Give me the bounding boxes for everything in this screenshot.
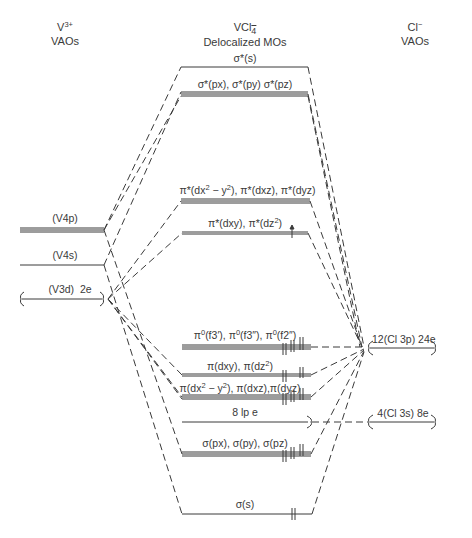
label-pi-star-dx2: π*(dx2 − y2), π*(dxz), π*(dyz) xyxy=(175,184,320,196)
label-sigma-s: σ(s) xyxy=(220,498,270,510)
level-pi-dxy xyxy=(182,374,311,376)
level-v4p xyxy=(20,228,104,232)
label-v4s: (V4s) xyxy=(40,249,90,261)
label-cl3s: 4(Cl 3s) 8e xyxy=(372,407,434,419)
label-sigma-p: σ(px), σ(py), σ(pz) xyxy=(190,437,300,449)
level-pi-dx2 xyxy=(182,395,311,399)
label-v3d: (V3d) 2e xyxy=(40,283,100,295)
label-pi-star-dxy: π*(dxy), π*(dz2) xyxy=(190,217,300,229)
level-pi-star-dx2 xyxy=(181,199,310,203)
level-pi-star-dxy xyxy=(182,232,308,234)
level-pi0-f xyxy=(182,345,311,349)
label-pi-dxy: π(dxy), π(dz2) xyxy=(190,360,290,372)
label-cl3p: 12(Cl 3p) 24e xyxy=(372,333,434,345)
level-sigma-p xyxy=(182,452,311,456)
label-pi0-f: π0(f3′), π0(f3″), π0(f2″) xyxy=(180,329,310,341)
label-lone-pairs: 8 lp e xyxy=(215,406,275,418)
label-pi-dx2: π(dx2 − y2), π(dxz),π(dyz) xyxy=(175,382,305,394)
electron-arrows xyxy=(283,225,303,520)
label-sigma-star-s: σ*(s) xyxy=(200,52,290,64)
label-v4p: (V4p) xyxy=(40,212,90,224)
label-sigma-star-p: σ*(px), σ*(py) σ*(pz) xyxy=(185,78,305,90)
level-sigma-star-p xyxy=(181,92,308,96)
